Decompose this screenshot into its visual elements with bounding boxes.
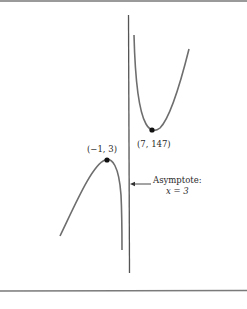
bottom-rule (0, 291, 247, 292)
asymptote-label-line2: x = 3 (166, 186, 189, 196)
local-minimum-point (149, 127, 154, 132)
asymptote-line (129, 15, 130, 273)
top-border (0, 0, 247, 2)
local-minimum-label: (7, 147) (137, 139, 171, 149)
right-branch-curve (134, 35, 189, 130)
left-branch-curve (60, 159, 122, 250)
asymptote-label-line1: Asymptote: (152, 175, 202, 185)
arrow-head-icon (130, 182, 135, 186)
local-maximum-point (104, 157, 109, 162)
local-maximum-label: (−1, 3) (87, 144, 117, 154)
function-graph: (7, 147) (−1, 3) Asymptote: x = 3 (0, 0, 247, 309)
